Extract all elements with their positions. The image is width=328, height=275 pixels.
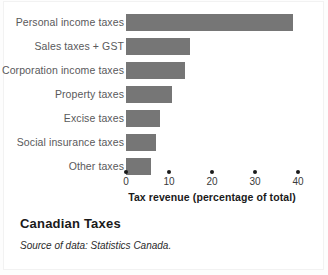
- category-label: Property taxes: [55, 82, 124, 106]
- chart-plot-area: Personal income taxesSales taxes + GSTCo…: [0, 10, 328, 178]
- bar: [126, 38, 190, 55]
- figure-panel: Personal income taxesSales taxes + GSTCo…: [0, 0, 328, 275]
- bar: [126, 134, 156, 151]
- category-label: Social insurance taxes: [17, 130, 124, 154]
- x-axis-label: Tax revenue (percentage of total): [126, 191, 298, 203]
- x-tick-dot: [253, 170, 257, 174]
- x-tick-label: 0: [106, 176, 146, 187]
- chart-row: Corporation income taxes: [0, 58, 328, 82]
- x-tick-dot: [210, 170, 214, 174]
- category-label: Sales taxes + GST: [34, 34, 124, 58]
- figure-title: Canadian Taxes: [20, 216, 310, 231]
- x-tick-dot: [167, 170, 171, 174]
- figure-source-note: Source of data: Statistics Canada.: [20, 240, 310, 251]
- category-label: Corporation income taxes: [2, 58, 124, 82]
- x-tick-label: 10: [149, 176, 189, 187]
- x-tick-label: 20: [192, 176, 232, 187]
- bar: [126, 62, 185, 79]
- bar: [126, 14, 293, 31]
- category-label: Personal income taxes: [16, 10, 124, 34]
- bar: [126, 110, 160, 127]
- x-tick-label: 40: [278, 176, 318, 187]
- x-tick-dot: [124, 170, 128, 174]
- chart-row: Social insurance taxes: [0, 130, 328, 154]
- bar: [126, 86, 172, 103]
- chart-row: Excise taxes: [0, 106, 328, 130]
- figure-inner: Personal income taxesSales taxes + GSTCo…: [0, 0, 328, 275]
- figure-caption: Canadian Taxes Source of data: Statistic…: [20, 216, 310, 251]
- x-tick-label: 30: [235, 176, 275, 187]
- chart-row: Property taxes: [0, 82, 328, 106]
- category-label: Excise taxes: [64, 106, 124, 130]
- x-tick-dot: [296, 170, 300, 174]
- chart-row: Sales taxes + GST: [0, 34, 328, 58]
- chart-row: Personal income taxes: [0, 10, 328, 34]
